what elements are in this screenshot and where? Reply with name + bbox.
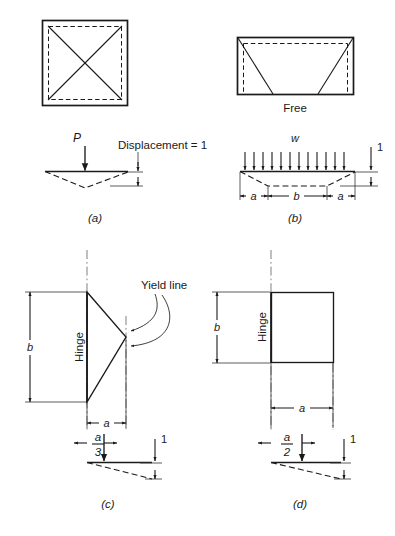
panel-a-section: P Displacement = 1 [45,131,207,188]
panel-d-rotated-line [271,463,341,480]
panel-a-load-label: P [73,131,81,145]
panel-d-unit-label: 1 [350,433,356,445]
panel-a: P Displacement = 1 (a) [43,21,208,225]
panel-c-yield-line-label: Yield line [141,279,187,291]
panel-d-square-panel [272,293,334,363]
panel-d-frac-numerator: a [284,431,290,443]
panel-b-udl-arrows [245,152,344,170]
panel-d-frac-denominator: 2 [283,446,291,458]
panel-b-caption: (b) [288,212,302,224]
panel-b-dim-a-right-label: a [337,190,343,202]
panel-c-frac-denominator: 3 [95,446,102,458]
panel-d-hinge-label: Hinge [256,312,268,342]
panel-b-dimension-line: a b a [240,172,355,202]
panel-a-caption: (a) [88,212,102,224]
panel-c-hinge-label: Hinge [73,332,85,362]
panel-c-frac-numerator: a [95,431,101,443]
panel-d-plan: Hinge b a [210,250,334,430]
panel-c-yield-leader-upper [131,294,157,331]
panel-c-triangle-yield-pattern [87,292,126,402]
panel-b-plan: Free [238,38,354,115]
panel-d-caption: (d) [293,498,307,510]
panel-b-section: w 1 [240,132,383,202]
panel-b-dim-b-label: b [293,190,299,202]
panel-d-dim-a-label: a [299,402,305,414]
panel-a-deformed-shape [45,172,128,189]
panel-d: Hinge b a a 2 1 [210,250,356,510]
panel-b-deformed-shape [240,172,355,187]
panel-c-section: a 3 1 [74,431,167,479]
panel-c-dim-b-label: b [27,341,33,353]
panel-c-unit-label: 1 [161,433,167,445]
figure-canvas: P Displacement = 1 (a) Free [0,0,395,536]
panel-b-unit-label: 1 [377,141,383,153]
panel-d-dim-b-label: b [214,321,220,333]
panel-c-plan: Hinge Yield line b a [23,250,187,430]
panel-b-load-label: w [291,132,300,144]
panel-c-rotated-line [87,463,152,480]
panel-b: Free w 1 [238,38,384,225]
panel-c: Hinge Yield line b a a 3 [23,250,187,510]
panel-b-free-edge-label: Free [283,102,307,114]
yield-line-figure: P Displacement = 1 (a) Free [0,0,395,536]
panel-a-plan [43,21,128,106]
panel-c-caption: (c) [101,498,115,510]
panel-c-dim-a-label: a [103,417,109,429]
panel-a-displacement-label: Displacement = 1 [118,139,207,151]
panel-d-section: a 2 1 [258,431,356,479]
panel-b-dim-a-left-label: a [250,190,256,202]
